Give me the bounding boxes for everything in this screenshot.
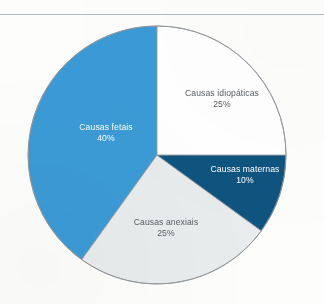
header-divider [0, 14, 324, 15]
pie-chart-graphic [0, 18, 324, 304]
page-canvas: Causas idiopáticas 25% Causas maternas 1… [0, 0, 324, 304]
pie-chart: Causas idiopáticas 25% Causas maternas 1… [0, 18, 324, 304]
pie-label-causas-maternas: Causas maternas 10% [192, 164, 298, 186]
pie-label-causas-anexiais: Causas anexiais 25% [113, 217, 219, 239]
pie-label-value: 25% [163, 99, 281, 110]
pie-label-causas-idiopaticas: Causas idiopáticas 25% [163, 88, 281, 110]
pie-label-name: Causas maternas [192, 164, 298, 175]
pie-label-value: 10% [192, 175, 298, 186]
pie-label-name: Causas fetais [54, 122, 158, 133]
pie-label-name: Causas anexiais [113, 217, 219, 228]
pie-label-causas-fetais: Causas fetais 40% [54, 122, 158, 144]
pie-label-name: Causas idiopáticas [163, 88, 281, 99]
pie-label-value: 25% [113, 228, 219, 239]
pie-label-value: 40% [54, 133, 158, 144]
